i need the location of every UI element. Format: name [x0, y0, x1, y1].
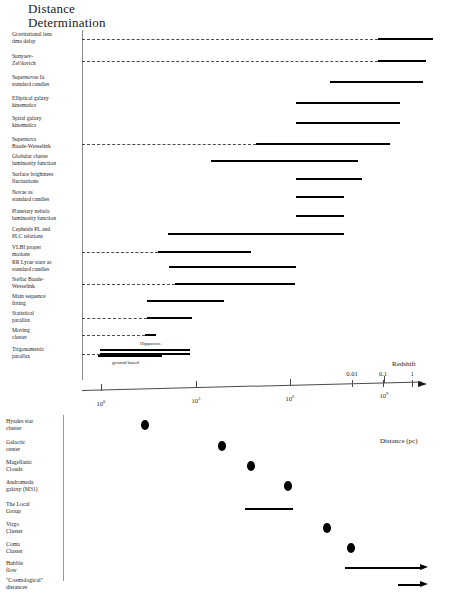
method-label: Globular clusterluminosity function — [12, 153, 82, 166]
distance-tick-exponent: 9 — [386, 391, 388, 396]
object-label: MagellanicClouds — [6, 459, 62, 473]
object-label: Andromedagalaxy (M31) — [6, 479, 62, 493]
method-label: Novae asstandard candles — [12, 189, 82, 202]
method-label: Gravitational lenstime delay — [12, 31, 82, 44]
method-range-bar — [158, 251, 251, 253]
object-marker-bar — [245, 508, 293, 510]
distance-determination-figure: Distance Determination Gravitational len… — [0, 0, 450, 594]
distance-axis-line — [82, 381, 422, 391]
method-range-bar — [147, 317, 192, 319]
page-title-line2: Determination — [28, 16, 158, 30]
distance-axis-title: Distance (pc) — [380, 437, 418, 445]
method-range-bar — [145, 334, 156, 336]
method-label: VLBI propermotions — [12, 244, 82, 257]
object-marker-arrow-line — [345, 567, 420, 569]
method-leader-line — [82, 61, 378, 62]
page-title: Distance Determination — [28, 2, 158, 30]
lower-panel-axis — [63, 415, 64, 581]
object-label: "Cosmological"distances — [6, 577, 62, 591]
method-label: Spiral galaxykinematics — [12, 115, 82, 128]
method-label: Statisticalparallax — [12, 310, 82, 323]
object-label: Hubbleflow — [6, 560, 62, 574]
redshift-tick-label: 0.01 — [339, 370, 365, 377]
distance-tick-label: 100 — [86, 399, 116, 407]
method-range-bar — [296, 196, 344, 198]
object-label: The LocalGroup — [6, 501, 62, 515]
redshift-tick-label: 1 — [399, 370, 425, 377]
method-range-bar — [169, 266, 296, 268]
method-range-bar — [168, 233, 344, 235]
object-marker-dot — [141, 420, 149, 430]
method-range-bar — [296, 122, 400, 124]
object-marker-dot — [218, 441, 226, 451]
parallax-subrange-bar — [100, 349, 190, 351]
method-leader-line — [82, 252, 158, 253]
method-range-bar — [378, 60, 426, 62]
object-marker-arrow-line — [398, 584, 420, 586]
method-label: Elliptical galaxykinematics — [12, 95, 82, 108]
method-label: Planetary nebulaluminosity function — [12, 208, 82, 221]
distance-axis-arrowhead — [418, 381, 427, 387]
method-range-bar — [296, 102, 400, 104]
method-range-bar — [211, 160, 358, 162]
parallax-subrange-label: Hipparcos — [140, 341, 161, 347]
object-label: ComaCluster — [6, 541, 62, 555]
method-label: Surface brightnessfluctuations — [12, 171, 82, 184]
distance-tick-label: 103 — [181, 396, 211, 404]
method-label: Stellar Baade-Wesselink — [12, 276, 82, 289]
object-label: VirgoCluster — [6, 521, 62, 535]
page-title-line1: Distance — [28, 2, 158, 16]
distance-tick-exponent: 6 — [292, 394, 294, 399]
parallax-subrange-bar — [98, 355, 162, 357]
object-label: Hyades starcluster — [6, 418, 62, 432]
distance-tick — [196, 381, 197, 388]
parallax-subrange-label: ground based — [112, 360, 139, 366]
object-marker-arrow-head — [420, 581, 428, 587]
method-range-bar — [256, 143, 390, 145]
distance-tick — [384, 376, 385, 383]
method-range-bar — [296, 178, 362, 180]
method-range-bar — [330, 81, 423, 83]
method-label: Cepheids PL andPLC relations — [12, 226, 82, 239]
method-leader-line — [82, 144, 256, 145]
method-label: Trigonometricparallax — [12, 346, 82, 359]
method-range-bar — [296, 215, 344, 217]
method-leader-line — [82, 335, 145, 336]
distance-tick-exponent: 3 — [198, 396, 200, 401]
method-label: SupernovaBaade-Wesselink — [12, 136, 82, 149]
distance-tick-exponent: 0 — [103, 399, 105, 404]
method-leader-line — [82, 284, 175, 285]
distance-tick-label: 109 — [369, 391, 399, 399]
distance-tick-label: 106 — [275, 394, 305, 402]
distance-tick — [101, 384, 102, 391]
method-label: Sunyaev-Zel'dovich — [12, 53, 82, 66]
method-label: RR Lyrae stars asstandard candles — [12, 259, 82, 272]
method-range-bar — [175, 283, 295, 285]
object-marker-dot — [247, 461, 255, 471]
method-label: Main sequencefitting — [12, 293, 82, 306]
upper-panel-axis — [82, 30, 83, 380]
method-leader-line — [82, 39, 378, 40]
method-label: Supernovae Iastandard candles — [12, 74, 82, 87]
method-leader-line — [82, 318, 147, 319]
redshift-axis-title: Redshift — [392, 360, 416, 368]
object-marker-dot — [284, 481, 292, 491]
method-range-bar — [378, 38, 433, 40]
object-marker-dot — [347, 543, 355, 553]
distance-tick — [290, 379, 291, 386]
object-label: Galacticcenter — [6, 439, 62, 453]
method-range-bar — [147, 300, 224, 302]
object-marker-arrow-head — [420, 564, 428, 570]
method-label: Movingcluster — [12, 327, 82, 340]
redshift-tick-label: 0.1 — [370, 370, 396, 377]
object-marker-dot — [323, 523, 331, 533]
